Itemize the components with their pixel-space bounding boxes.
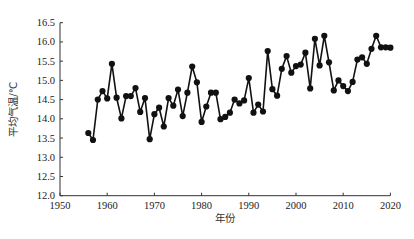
data-point-marker xyxy=(368,46,374,52)
y-tick-label: 16.5 xyxy=(37,17,55,28)
x-axis-title: 年份 xyxy=(215,212,236,224)
y-tick-label: 15.0 xyxy=(37,75,55,86)
data-point-marker xyxy=(317,62,323,68)
data-point-marker xyxy=(180,113,186,119)
data-point-marker xyxy=(359,54,365,60)
data-point-marker xyxy=(189,63,195,69)
data-point-marker xyxy=(350,79,356,85)
data-point-marker xyxy=(321,33,327,39)
data-point-marker xyxy=(326,59,332,65)
data-point-marker xyxy=(222,114,228,120)
x-tick-label: 1970 xyxy=(144,200,165,211)
data-point-marker xyxy=(260,108,266,114)
data-point-marker xyxy=(104,95,110,101)
data-point-marker xyxy=(307,85,313,91)
y-tick-label: 15.5 xyxy=(37,56,55,67)
data-point-marker xyxy=(128,93,134,99)
data-point-marker xyxy=(246,75,252,81)
data-point-marker xyxy=(335,77,341,83)
data-point-marker xyxy=(298,62,304,68)
data-point-marker xyxy=(184,90,190,96)
y-axis-title: 平均气温/℃ xyxy=(7,81,19,136)
data-series xyxy=(85,33,393,143)
data-point-marker xyxy=(364,61,370,67)
data-point-marker xyxy=(203,103,209,109)
data-point-marker xyxy=(151,111,157,117)
x-tick-label: 2000 xyxy=(286,200,307,211)
data-point-marker xyxy=(199,119,205,125)
data-point-marker xyxy=(161,123,167,129)
y-tick-label: 13.0 xyxy=(37,152,55,163)
data-point-marker xyxy=(147,136,153,142)
data-point-marker xyxy=(99,88,105,94)
data-point-marker xyxy=(227,110,233,116)
data-point-marker xyxy=(345,88,351,94)
data-point-marker xyxy=(132,85,138,91)
data-point-marker xyxy=(288,70,294,76)
data-point-marker xyxy=(142,95,148,101)
data-point-marker xyxy=(331,87,337,93)
data-point-marker xyxy=(274,93,280,99)
data-point-marker xyxy=(118,115,124,121)
x-tick-label: 1960 xyxy=(97,200,118,211)
x-tick-label: 2020 xyxy=(380,200,401,211)
x-tick-label: 1950 xyxy=(50,200,71,211)
data-point-marker xyxy=(284,53,290,59)
y-tick-label: 14.0 xyxy=(37,113,55,124)
x-tick-label: 1990 xyxy=(238,200,259,211)
line-chart: 12.012.513.013.514.014.515.015.516.016.5… xyxy=(0,0,414,239)
data-point-marker xyxy=(340,83,346,89)
data-point-marker xyxy=(156,105,162,111)
data-point-marker xyxy=(269,86,275,92)
y-tick-label: 13.5 xyxy=(37,133,55,144)
data-point-marker xyxy=(241,97,247,103)
data-point-marker xyxy=(137,109,143,115)
y-tick-label: 16.0 xyxy=(37,36,55,47)
data-point-marker xyxy=(373,33,379,39)
data-point-marker xyxy=(312,36,318,42)
data-point-marker xyxy=(194,79,200,85)
data-point-marker xyxy=(387,45,393,51)
data-point-marker xyxy=(170,103,176,109)
data-point-marker xyxy=(279,66,285,72)
data-point-marker xyxy=(90,137,96,143)
data-point-marker xyxy=(265,48,271,54)
data-point-marker xyxy=(250,110,256,116)
data-point-marker xyxy=(166,95,172,101)
y-tick-label: 14.5 xyxy=(37,94,55,105)
data-point-marker xyxy=(213,90,219,96)
data-point-marker xyxy=(109,61,115,67)
data-point-marker xyxy=(95,97,101,103)
data-point-marker xyxy=(255,102,261,108)
data-point-marker xyxy=(114,95,120,101)
data-point-marker xyxy=(175,87,181,93)
y-tick-label: 12.5 xyxy=(37,171,55,182)
x-tick-label: 1980 xyxy=(191,200,212,211)
x-tick-label: 2010 xyxy=(333,200,354,211)
data-point-marker xyxy=(85,130,91,136)
data-point-marker xyxy=(302,50,308,56)
